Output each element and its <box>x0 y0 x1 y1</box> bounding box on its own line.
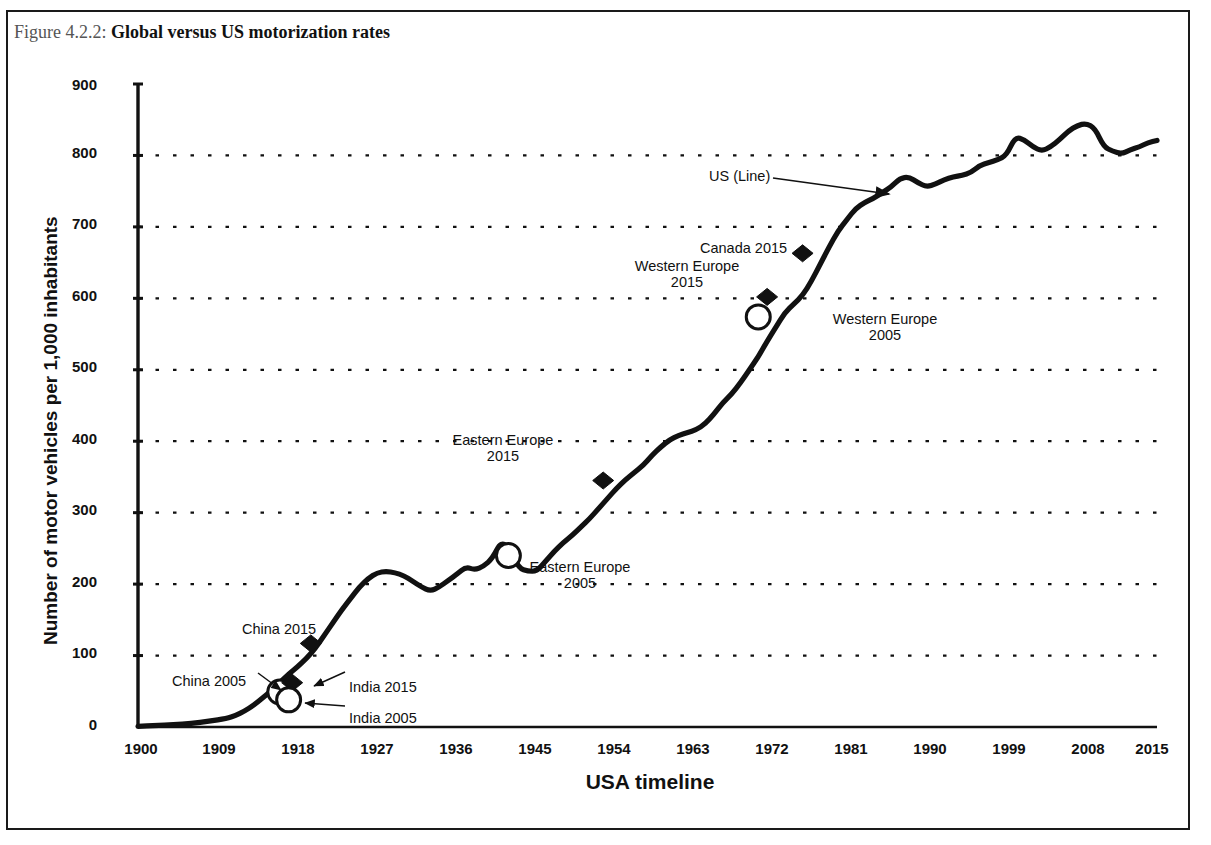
india-2005-arrow <box>305 703 345 706</box>
x-tick-1909: 1909 <box>191 740 247 757</box>
x-tick-2008: 2008 <box>1060 740 1116 757</box>
annotation-china-2015: China 2015 <box>242 621 316 637</box>
motorization-line-chart <box>0 0 1211 845</box>
annotation-eastern-europe-2005-line2: 2005 <box>564 575 596 591</box>
annotation-western-europe-2015-line2: 2015 <box>671 274 703 290</box>
annotation-eastern-europe-2005: Eastern Europe 2005 <box>490 559 670 591</box>
annotation-us-line: US (Line) <box>709 168 770 184</box>
annotation-india-2015: India 2015 <box>349 679 417 695</box>
data-point-markers <box>268 245 813 712</box>
annotation-india-2005: India 2005 <box>349 710 417 726</box>
x-tick-1981: 1981 <box>823 740 879 757</box>
x-tick-1927: 1927 <box>349 740 405 757</box>
marker-eastern-europe-2015 <box>593 472 614 489</box>
annotation-china-2005: China 2005 <box>172 673 246 689</box>
y-tick-0: 0 <box>47 716 97 733</box>
x-tick-1990: 1990 <box>902 740 958 757</box>
marker-india-2005 <box>277 688 301 712</box>
x-tick-1963: 1963 <box>665 740 721 757</box>
x-tick-1972: 1972 <box>744 740 800 757</box>
annotation-canada-2015: Canada 2015 <box>700 240 787 256</box>
x-tick-1945: 1945 <box>507 740 563 757</box>
annotation-eastern-europe-2005-line1: Eastern Europe <box>530 559 631 575</box>
annotation-western-europe-2015: Western Europe 2015 <box>597 258 777 290</box>
x-tick-1918: 1918 <box>270 740 326 757</box>
x-tick-1999: 1999 <box>981 740 1037 757</box>
annotation-western-europe-2005-line2: 2005 <box>869 327 901 343</box>
annotation-eastern-europe-2015-line1: Eastern Europe <box>453 432 554 448</box>
marker-canada-2015 <box>792 245 813 262</box>
x-tick-1954: 1954 <box>586 740 642 757</box>
annotation-eastern-europe-2015-line2: 2015 <box>487 448 519 464</box>
annotation-western-europe-2015-line1: Western Europe <box>635 258 740 274</box>
marker-western-europe-2005 <box>746 305 770 329</box>
marker-western-europe-2015 <box>757 288 778 305</box>
y-axis-title: Number of motor vehicles per 1,000 inhab… <box>40 216 62 645</box>
y-tick-800: 800 <box>47 144 97 161</box>
y-tick-900: 900 <box>47 76 97 93</box>
annotation-western-europe-2005: Western Europe 2005 <box>795 311 975 343</box>
x-tick-1936: 1936 <box>428 740 484 757</box>
india-2015-arrow <box>314 672 345 686</box>
x-axis-title: USA timeline <box>540 770 760 794</box>
y-tick-100: 100 <box>47 644 97 661</box>
annotation-western-europe-2005-line1: Western Europe <box>833 311 938 327</box>
x-tick-1900: 1900 <box>113 740 169 757</box>
annotation-eastern-europe-2015: Eastern Europe 2015 <box>413 432 593 464</box>
us-line-arrow <box>773 178 889 194</box>
marker-china-2015 <box>300 635 321 652</box>
x-tick-2015: 2015 <box>1124 740 1180 757</box>
